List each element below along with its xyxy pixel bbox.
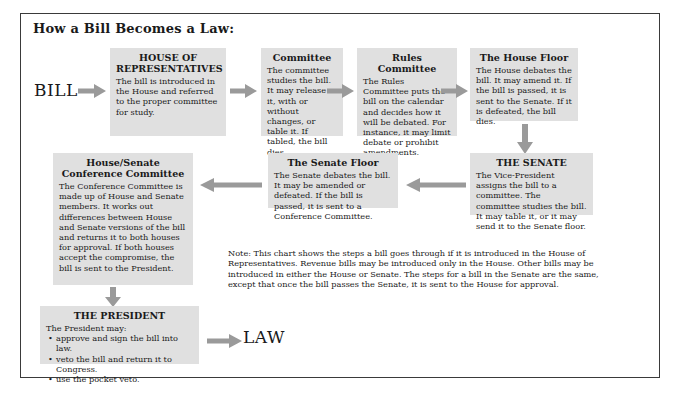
bill-start-label: BILL <box>34 80 78 100</box>
chart-note: Note: This chart shows the steps a bill … <box>228 248 618 290</box>
node-body: The Senate debates the bill. It may be a… <box>274 170 392 221</box>
arrow-house-to-committee <box>230 84 257 98</box>
node-title: THE SENATE <box>476 157 587 168</box>
node-body: The Vice-President assigns the bill to a… <box>476 170 587 231</box>
arrow-senate-to-senate-floor <box>406 178 466 192</box>
node-body: The Rules Committee puts the bill on the… <box>363 76 451 158</box>
arrow-president-to-law <box>207 334 242 348</box>
arrow-senate-floor-to-conference <box>200 178 262 192</box>
law-end-label: LAW <box>243 327 285 347</box>
node-body: The bill is introduced in the House and … <box>116 76 220 117</box>
arrow-conference-to-president <box>105 287 121 307</box>
node-body: The President may: <box>46 323 193 333</box>
node-title: Committee <box>267 52 337 63</box>
node-title: HOUSE OF REPRESENTATIVES <box>116 52 220 74</box>
node-senate-floor: The Senate Floor The Senate debates the … <box>268 153 398 208</box>
node-title: The House Floor <box>476 52 572 63</box>
node-house-of-representatives: HOUSE OF REPRESENTATIVES The bill is int… <box>110 48 226 136</box>
arrow-committee-to-rules <box>327 84 354 98</box>
arrow-house-floor-to-senate <box>517 124 533 154</box>
node-title: The Senate Floor <box>274 157 392 168</box>
page-title: How a Bill Becomes a Law: <box>33 21 234 36</box>
node-title: Rules Committee <box>363 52 451 74</box>
arrow-bill-to-house <box>78 84 106 98</box>
list-item: use the pocket veto. <box>56 374 193 384</box>
node-body: The Conference Committee is made up of H… <box>59 181 187 273</box>
arrow-rules-to-house-floor <box>441 84 468 98</box>
president-options-list: approve and sign the bill into law. veto… <box>46 333 193 384</box>
node-conference-committee: House/Senate Conference Committee The Co… <box>53 153 193 285</box>
node-title: THE PRESIDENT <box>46 310 193 321</box>
node-the-senate: THE SENATE The Vice-President assigns th… <box>470 153 593 215</box>
node-the-president: THE PRESIDENT The President may: approve… <box>40 306 199 364</box>
node-house-floor: The House Floor The House debates the bi… <box>470 48 578 121</box>
list-item: veto the bill and return it to Congress. <box>56 354 193 374</box>
node-body: The committee studies the bill. It may r… <box>267 65 337 157</box>
list-item: approve and sign the bill into law. <box>56 333 193 353</box>
node-body: The House debates the bill. It may amend… <box>476 65 572 126</box>
node-title: House/Senate Conference Committee <box>59 157 187 179</box>
